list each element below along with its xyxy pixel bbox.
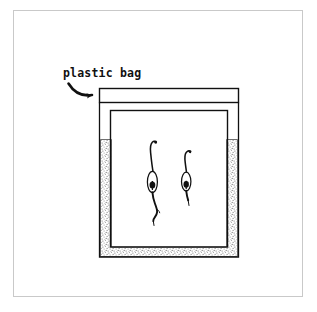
plastic-bag (100, 89, 239, 248)
seedling-right (182, 150, 192, 205)
callout-arrow-icon (69, 84, 93, 96)
seedling-left (147, 141, 159, 226)
bag-seal-band (100, 89, 239, 103)
diagram-illustration (0, 0, 317, 312)
pot-outline (100, 103, 239, 258)
figure-canvas: plastic bag (0, 0, 317, 312)
soil-fill (101, 140, 238, 257)
plastic-bag-label: plastic bag (63, 66, 141, 80)
bag-body-outline (111, 111, 228, 248)
